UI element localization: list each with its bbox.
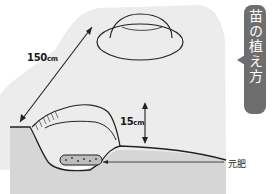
width-unit: cm [47, 55, 58, 63]
height-value: 15 [120, 116, 133, 127]
height-label: 15cm [120, 116, 144, 127]
fertilizer-label: 元肥 [228, 157, 246, 170]
width-value: 150 [27, 52, 47, 63]
width-label: 150cm [27, 52, 58, 63]
height-unit: cm [133, 119, 144, 127]
title-text: 苗の植え方 [244, 9, 266, 84]
